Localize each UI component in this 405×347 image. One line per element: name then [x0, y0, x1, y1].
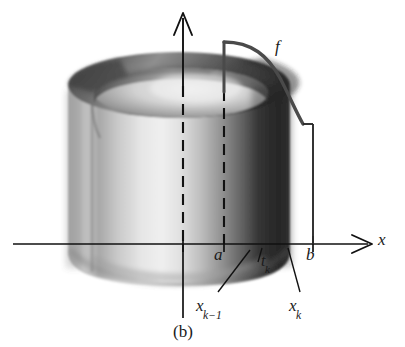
x-axis-label: x	[378, 231, 386, 248]
cylindrical-shell-figure: a b x f tk xk−1 xk (b)	[0, 0, 405, 347]
tick-label-b: b	[306, 246, 315, 263]
curve-label-f: f	[275, 38, 280, 55]
partition-label-x-k: xk	[289, 297, 302, 318]
figure-caption: (b)	[173, 322, 193, 342]
shell-left-shadow	[66, 90, 84, 268]
figure-canvas	[0, 0, 405, 347]
partition-label-t-k-subscript: k	[265, 263, 270, 275]
partition-label-x-k-subscript: k	[296, 309, 301, 322]
leader-line-xk	[288, 248, 300, 292]
partition-label-x-k-minus-1-subscript: k−1	[203, 309, 222, 322]
shell-right-shadow	[252, 86, 292, 266]
tick-label-a: a	[214, 246, 223, 263]
shell-hole-highlight	[150, 73, 242, 103]
partition-label-t-k: tk	[261, 253, 270, 272]
partition-label-x-k-minus-1: xk−1	[196, 297, 222, 318]
